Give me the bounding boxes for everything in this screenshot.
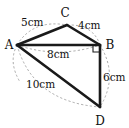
figure-canvas: A C B D 5cm 4cm 8cm 6cm 10cm — [0, 0, 129, 128]
measurement-arc-group — [13, 24, 109, 107]
vertex-label-a: A — [4, 38, 14, 52]
edge-group — [17, 25, 100, 107]
length-label-ab: 8cm — [47, 48, 70, 60]
vertex-label-c: C — [60, 6, 69, 20]
geometry-figure: A C B D 5cm 4cm 8cm 6cm 10cm — [0, 0, 129, 128]
length-label-bd: 6cm — [103, 71, 126, 83]
edge-ac — [17, 25, 67, 45]
length-label-cb: 4cm — [78, 19, 101, 31]
length-label-ac: 5cm — [21, 16, 44, 28]
measurement-label-group: 5cm 4cm 8cm 6cm 10cm — [21, 16, 126, 90]
vertex-label-d: D — [95, 114, 105, 128]
vertex-label-b: B — [106, 38, 115, 52]
length-label-ad: 10cm — [26, 78, 55, 90]
